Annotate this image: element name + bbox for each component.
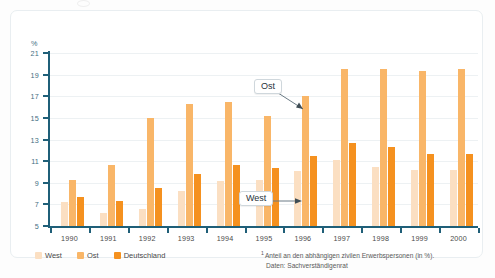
legend-label: West: [45, 251, 62, 260]
x-axis-tick: [245, 228, 247, 233]
x-axis-tick: [206, 228, 208, 233]
x-axis-tick: [439, 228, 441, 233]
bar-west-1997: [333, 160, 340, 226]
chart-legend: WestOstDeutschland: [35, 251, 176, 260]
callout-ost: Ost: [254, 79, 282, 94]
legend-label: Deutschland: [124, 251, 166, 260]
bar-deutschland-2000: [466, 154, 473, 226]
bar-ost-1999: [419, 71, 426, 226]
bar-ost-1997: [341, 69, 348, 226]
bar-ost-1995: [264, 116, 271, 226]
bar-west-1991: [100, 213, 107, 226]
bar-deutschland-1998: [388, 147, 395, 226]
y-axis-tick-label: 11: [11, 157, 39, 166]
bar-ost-1990: [69, 180, 76, 226]
footnote-line-1: 1Anteil an den abhängigen zivilen Erwerb…: [261, 249, 476, 261]
y-axis-tick-label: 9: [11, 179, 39, 188]
y-axis-tick-label: 19: [11, 71, 39, 80]
bar-west-1998: [372, 167, 379, 226]
bar-group: [61, 53, 84, 226]
x-axis-tick: [322, 228, 324, 233]
bar-group: [450, 53, 473, 226]
bar-ost-1996: [302, 96, 309, 226]
y-axis-tick-label: 17: [11, 92, 39, 101]
bar-deutschland-1992: [155, 188, 162, 226]
bar-group: [217, 53, 240, 226]
x-axis-tick: [478, 228, 480, 233]
x-axis-tick: [283, 228, 285, 233]
scan-artifact: [77, 0, 90, 7]
y-axis-tick-label: 5: [11, 222, 39, 231]
x-axis-tick: [361, 228, 363, 233]
bar-ost-1991: [108, 165, 115, 226]
bar-deutschland-1997: [349, 143, 356, 226]
bar-group: [100, 53, 123, 226]
bar-group: [372, 53, 395, 226]
y-axis-tick-label: 7: [11, 200, 39, 209]
bar-ost-1993: [186, 104, 193, 226]
callout-west: West: [239, 191, 273, 206]
bar-group: [139, 53, 162, 226]
bar-west-1999: [411, 170, 418, 226]
x-axis-tick: [50, 228, 52, 233]
footnote-line-2: Daten: Sachverständigenrat: [261, 261, 476, 271]
x-axis-tick-label: 2000: [436, 234, 482, 243]
bar-west-2000: [450, 170, 457, 226]
bar-deutschland-1991: [116, 201, 123, 226]
y-axis-tick-label: 15: [11, 114, 39, 123]
x-axis-tick: [400, 228, 402, 233]
legend-item-west: West: [35, 251, 62, 260]
legend-swatch: [35, 252, 42, 259]
x-axis-tick: [89, 228, 91, 233]
west-leader-line: [272, 196, 310, 206]
x-axis-tick: [128, 228, 130, 233]
bar-ost-1992: [147, 118, 154, 226]
bar-west-1994: [217, 181, 224, 226]
x-axis-tick: [167, 228, 169, 233]
bar-west-1990: [61, 202, 68, 226]
bar-group: [178, 53, 201, 226]
bar-deutschland-1993: [194, 174, 201, 226]
bar-group: [411, 53, 434, 226]
legend-swatch: [114, 252, 121, 259]
bar-deutschland-1990: [77, 197, 84, 226]
legend-item-ost: Ost: [77, 251, 99, 260]
y-axis-tick-label: 21: [11, 49, 39, 58]
y-axis-unit: %: [31, 39, 37, 48]
y-axis-tick-label: 13: [11, 136, 39, 145]
chart-frame: % 579111315171921 1990199119921993199419…: [10, 10, 483, 258]
bar-ost-1994: [225, 102, 232, 226]
footnote-marker: 1: [261, 250, 264, 256]
bar-deutschland-1996: [310, 156, 317, 226]
footnote-text-1: Anteil an den abhängigen zivilen Erwerbs…: [265, 252, 434, 259]
legend-swatch: [77, 252, 84, 259]
bar-group: [333, 53, 356, 226]
bar-ost-2000: [458, 69, 465, 226]
legend-item-deutschland: Deutschland: [114, 251, 166, 260]
bar-west-1992: [139, 209, 146, 226]
bar-deutschland-1999: [427, 154, 434, 226]
chart-figure: % 579111315171921 1990199119921993199419…: [0, 0, 495, 278]
x-axis-line: [48, 226, 478, 228]
bar-ost-1998: [380, 69, 387, 226]
footnote: 1Anteil an den abhängigen zivilen Erwerb…: [261, 249, 476, 272]
bar-west-1993: [178, 191, 185, 226]
legend-label: Ost: [87, 251, 99, 260]
